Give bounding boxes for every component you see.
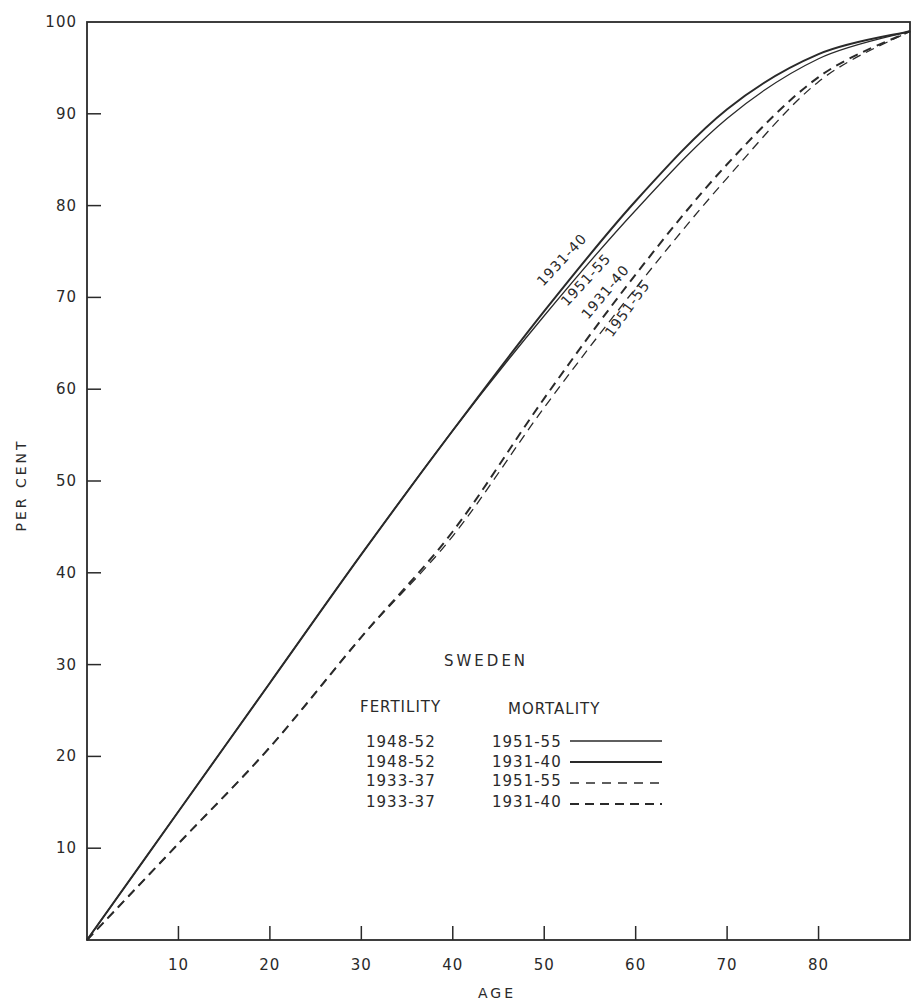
y-tick-label: 20 xyxy=(56,747,77,765)
y-axis-title: PER CENT xyxy=(13,438,29,531)
y-axis: 102030405060708090100 xyxy=(45,13,101,857)
legend: SWEDEN FERTILITY MORTALITY 1948-52 1951-… xyxy=(360,652,662,811)
chart-canvas: 102030405060708090100 1020304050607080 P… xyxy=(0,0,922,1006)
legend-row-3-mortality: 1951-55 xyxy=(492,772,562,790)
x-tick-label: 20 xyxy=(259,956,280,974)
x-tick-label: 70 xyxy=(717,956,738,974)
x-axis-title: AGE xyxy=(478,985,516,1001)
x-axis: 1020304050607080 xyxy=(168,926,829,974)
y-tick-label: 100 xyxy=(45,13,77,31)
legend-title: SWEDEN xyxy=(444,652,528,670)
y-tick-label: 60 xyxy=(56,380,77,398)
legend-row-3-fertility: 1933-37 xyxy=(366,772,436,790)
y-tick-label: 40 xyxy=(56,564,77,582)
y-tick-label: 10 xyxy=(56,839,77,857)
y-tick-label: 90 xyxy=(56,105,77,123)
x-tick-label: 60 xyxy=(625,956,646,974)
x-tick-label: 30 xyxy=(351,956,372,974)
y-tick-label: 80 xyxy=(56,197,77,215)
legend-row-4-fertility: 1933-37 xyxy=(366,793,436,811)
x-tick-label: 10 xyxy=(168,956,189,974)
legend-header-fertility: FERTILITY xyxy=(360,698,441,716)
x-tick-label: 80 xyxy=(808,956,829,974)
legend-header-mortality: MORTALITY xyxy=(508,700,600,718)
legend-row-4-mortality: 1931-40 xyxy=(492,793,562,811)
y-tick-label: 30 xyxy=(56,656,77,674)
x-tick-label: 40 xyxy=(442,956,463,974)
legend-row-1-fertility: 1948-52 xyxy=(366,733,436,751)
legend-row-2-fertility: 1948-52 xyxy=(366,753,436,771)
legend-row-1-mortality: 1951-55 xyxy=(492,733,562,751)
y-tick-label: 70 xyxy=(56,288,77,306)
y-tick-label: 50 xyxy=(56,472,77,490)
legend-row-2-mortality: 1931-40 xyxy=(492,753,562,771)
x-tick-label: 50 xyxy=(534,956,555,974)
